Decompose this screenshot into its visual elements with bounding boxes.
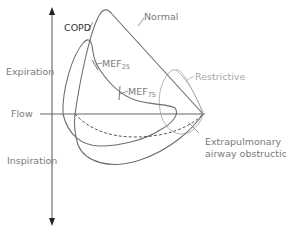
extrapulmonary-label-line1: Extrapulmonary	[205, 136, 281, 147]
expiration-label: Expiration	[6, 66, 54, 77]
restrictive-label: Restrictive	[195, 71, 245, 82]
inspiration-label: Inspiration	[7, 155, 57, 166]
mef25-label: MEF25	[102, 58, 130, 73]
flow-volume-diagram	[0, 0, 286, 233]
flow-label: Flow	[11, 108, 33, 119]
mef75-label: MEF75	[128, 86, 156, 101]
extrapulmonary-label-line2: airway obstruction	[205, 148, 286, 159]
normal-label: Normal	[144, 11, 178, 22]
vertical-axis	[49, 7, 55, 226]
copd-label: COPD	[64, 22, 91, 33]
mef75-tick	[119, 86, 120, 100]
